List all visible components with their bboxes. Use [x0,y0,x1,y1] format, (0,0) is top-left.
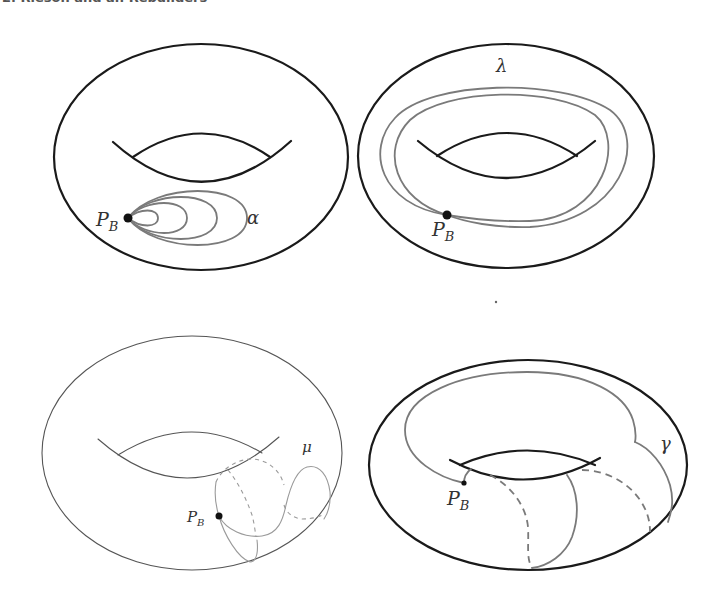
curve-lambda [380,88,627,227]
base-point-dot [216,513,223,520]
panel-top-left: PBα [54,44,348,270]
torus-hole-upper-arc [460,451,595,466]
curve-lambda [395,95,609,222]
curve-label-lambda: λ [495,55,507,76]
curve-mu-hidden [228,470,256,537]
torus-outline [358,44,654,268]
curve-mu [219,467,330,537]
torus-curves-figure: PBαPBλPBμPBγ [0,0,716,603]
base-point-dot [124,214,133,223]
curve-label-alpha: α [247,207,259,228]
curve-gamma [405,372,636,483]
curve-mu-hidden [216,459,284,485]
panel-bottom-left: PBμ [42,336,342,570]
panels-root: PBαPBλPBμPBγ [42,44,687,570]
base-point-label: PB [446,487,469,513]
curve-label-mu: μ [302,438,312,456]
torus-hole-upper-arc [118,432,262,455]
curve-gamma [532,475,577,568]
torus-hole-lower-arc [418,141,595,178]
base-point-dot [461,480,466,485]
torus-hole-lower-arc [98,437,279,478]
stray-mark [495,301,497,303]
panel-top-right: PBλ [358,44,654,268]
curve-gamma-hidden [582,470,650,532]
torus-hole-upper-arc [133,134,270,158]
torus-hole-upper-arc [437,133,577,156]
curve-mu [215,482,257,562]
base-point-label: PB [95,208,118,234]
curve-gamma [635,442,672,522]
torus-outline [42,336,342,570]
base-point-label: PB [186,508,204,528]
torus-hole-lower-arc [113,141,291,182]
panel-bottom-right: PBγ [369,360,687,570]
base-point-label: PB [431,218,454,244]
curve-gamma-hidden [490,475,532,568]
curve-label-gamma: γ [660,433,671,454]
curve-mu-hidden [284,505,324,519]
